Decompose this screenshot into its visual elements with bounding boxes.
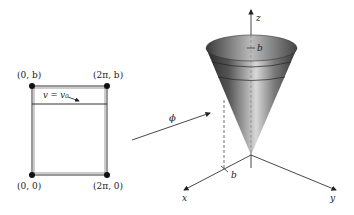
y-axis [251,155,336,190]
corner-label-top-right: (2π, b) [93,71,123,80]
v-line-label: v = v₀ [43,91,69,100]
y-axis-label: y [330,194,335,203]
z-axis-label: z [256,14,261,23]
corner-point-top-right [104,83,110,89]
cone [206,35,297,155]
corner-label-bottom-right: (2π, 0) [93,182,123,191]
x-axis [184,155,251,190]
corner-label-bottom-left: (0, 0) [17,182,41,191]
corner-point-top-left [29,83,35,89]
phi-label: ϕ [169,113,176,123]
radius-label: b [231,171,237,180]
x-axis-label: x [182,194,187,203]
radius-tick [221,166,228,172]
corner-point-bottom-left [29,172,35,178]
corner-point-bottom-right [104,172,110,178]
height-label: b [257,44,263,53]
diagram-canvas [0,0,354,215]
corner-label-top-left: (0, b) [17,71,41,80]
parameter-rectangle [29,83,110,178]
